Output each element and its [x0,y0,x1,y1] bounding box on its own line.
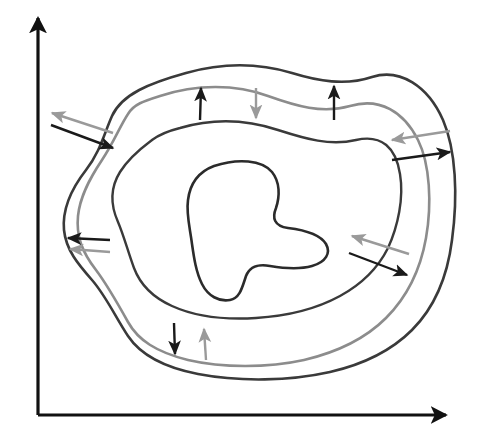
outer-gray-curve [78,87,430,366]
arrow-pair-left-middle-black-arrow-icon [68,238,110,240]
arrow-pair-top-center-black-arrow-icon [200,88,201,120]
axes-group [38,18,446,415]
middle-dark-curve [112,121,401,318]
diagram-canvas [0,0,484,443]
arrow-pair-lower-right-black-arrow-icon [349,253,407,275]
arrow-pair-left-middle-gray-arrow-icon [70,249,110,252]
arrow-pair-right-gray-arrow-icon [392,131,450,140]
arrow-pair-right-black-arrow-icon [392,152,450,160]
inner-blob-curve [187,161,327,300]
arrow-pair-bottom-black-arrow-icon [174,323,175,354]
arrow-pair-lower-right-gray-arrow-icon [352,236,409,254]
figure-root [0,0,484,443]
curves-group [64,65,455,379]
arrow-pair-bottom-gray-arrow-icon [204,329,206,360]
